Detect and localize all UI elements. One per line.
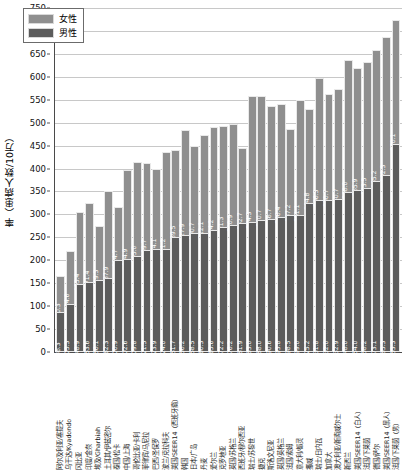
y-tick-mark	[47, 168, 50, 169]
x-axis-label-cell: 意大利/都灵	[296, 354, 305, 471]
bar-segment-male[interactable]: 283.0	[248, 222, 257, 352]
bar-segment-female[interactable]: 174.1	[152, 169, 161, 249]
bar-column[interactable]: 162.7281.9	[238, 8, 247, 352]
bar-segment-male[interactable]: 453.3	[392, 144, 401, 352]
bar-segment-male[interactable]: 299.0	[296, 215, 305, 352]
bar-segment-male[interactable]: 288.0	[257, 220, 266, 352]
bar-segment-female[interactable]: 220.9	[229, 124, 238, 225]
bar-segment-male[interactable]: 298.5	[286, 215, 295, 352]
bar-column[interactable]: 227.9256.2	[181, 8, 190, 352]
bar-segment-female[interactable]: 230.7	[325, 94, 334, 200]
bar-segment-male[interactable]: 331.8	[315, 200, 324, 352]
bar-segment-male[interactable]: 258.5	[190, 233, 199, 352]
bar-segment-female[interactable]: 266.3	[315, 78, 324, 200]
x-axis-label-cell: 法国/索姆	[286, 354, 295, 471]
bar-segment-male[interactable]: 223.9	[152, 249, 161, 352]
bar-column[interactable]: 220.9276.2	[229, 8, 238, 352]
bar-segment-female[interactable]: 227.9	[181, 130, 190, 235]
x-axis-label-cell: 泰国/松卡	[113, 354, 122, 471]
bar-segment-male[interactable]: 281.9	[238, 223, 247, 352]
bar-segment-male[interactable]: 256.2	[181, 235, 190, 353]
bar-segment-male[interactable]: 348.0	[344, 192, 353, 352]
bar-column[interactable]: 189.5251.7	[171, 8, 180, 352]
bar-segment-female[interactable]: 187.2	[286, 129, 295, 215]
bar-column[interactable]: 187.2298.5	[286, 8, 295, 352]
bar-column[interactable]: 190.7258.5	[190, 8, 199, 352]
bar-segment-female[interactable]: 246.4	[277, 104, 286, 217]
bar-column[interactable]: 189.7221.5	[143, 8, 152, 352]
bar-segment-female[interactable]: 288.0	[344, 60, 353, 192]
bar-segment-male[interactable]: 276.2	[229, 225, 238, 352]
bar-column[interactable]: 211.2224.0	[162, 8, 171, 352]
bar-column[interactable]: 224.2265.6	[210, 8, 219, 352]
bar-segment-male[interactable]: 200.9	[114, 260, 123, 352]
x-axis-label-cell: 新西兰	[344, 354, 353, 471]
bar-segment-male[interactable]: 293.8	[277, 217, 286, 352]
bar-segment-female[interactable]: 273.5	[363, 62, 372, 187]
bar-segment-female[interactable]: 190.7	[190, 146, 199, 233]
bar-segment-female[interactable]: 302.3	[382, 37, 391, 176]
bar-column[interactable]: 240.7332.9	[334, 8, 343, 352]
bar-segment-female[interactable]: 270.1	[392, 20, 401, 144]
x-axis-label-cell: 中国/上海	[123, 354, 132, 471]
bar-segment-female[interactable]: 246.7	[267, 106, 276, 219]
bar-column[interactable]: 251.1299.0	[296, 8, 305, 352]
bar-column[interactable]: 266.3331.8	[315, 8, 324, 352]
x-axis-label-cell: 美国/SEER14（西班牙裔）	[171, 354, 180, 471]
bar-segment-female[interactable]: 189.7	[143, 163, 152, 250]
bar-column[interactable]: 270.7288.0	[257, 8, 266, 352]
legend-label-male: 男性	[59, 26, 77, 39]
bar-column[interactable]: 246.4293.8	[277, 8, 286, 352]
bar-column[interactable]: 212.1260.3	[200, 8, 209, 352]
x-axis-label-cell: 冈比亚	[75, 354, 84, 471]
bar-segment-male[interactable]: 202.6	[123, 259, 132, 352]
x-axis-label-cell: 阿尔及利亚/塞提夫	[55, 354, 64, 471]
bar-segment-male[interactable]: 272.2	[219, 227, 228, 352]
bar-column[interactable]: 187.9162.3	[104, 8, 113, 352]
bar-column[interactable]: 274.3283.0	[248, 8, 257, 352]
bar-column[interactable]: 230.7332.0	[325, 8, 334, 352]
bar-segment-female[interactable]: 265.9	[353, 68, 362, 190]
bar-column[interactable]: 174.1223.9	[152, 8, 161, 352]
y-tick-mark	[47, 329, 50, 330]
bar-segment-male[interactable]: 265.6	[210, 230, 219, 352]
bar-segment-male[interactable]: 354.0	[353, 190, 362, 352]
y-tick-label: 150	[30, 278, 46, 288]
legend-swatch-female-icon	[28, 14, 54, 24]
bar-segment-male[interactable]: 373.1	[372, 181, 381, 352]
x-axis-label-text: 法国/下莱茵（男）	[393, 420, 399, 470]
bar-column[interactable]: 119.3156.1	[95, 8, 104, 352]
bar-segment-female[interactable]: 270.7	[257, 96, 266, 220]
bar-segment-male[interactable]: 325.2	[305, 203, 314, 352]
x-axis-label-cell: 印度/金奈	[84, 354, 93, 471]
bar-column[interactable]: 205.0209.8	[133, 8, 142, 352]
bar-segment-male[interactable]: 332.9	[334, 199, 343, 352]
bar-column[interactable]: 270.1453.3	[392, 8, 401, 352]
x-axis-label-text: 西班牙/穆尔西亚	[239, 426, 245, 470]
bar-column[interactable]: 114.7200.9	[114, 8, 123, 352]
bar-segment-male[interactable]: 358.2	[363, 188, 372, 352]
y-tick-label: 50	[35, 324, 46, 334]
legend-item-male: 男性	[28, 26, 77, 39]
bar-column[interactable]: 194.9202.6	[123, 8, 132, 352]
bar-segment-male[interactable]: 385.3	[382, 175, 391, 352]
bar-segment-male[interactable]: 224.0	[162, 249, 171, 352]
bar-column[interactable]: 302.3385.3	[382, 8, 391, 352]
bar-column[interactable]: 171.4153.6	[85, 8, 94, 352]
bar-column[interactable]: 204.8325.2	[305, 8, 314, 352]
bar-segment-male[interactable]: 290.6	[267, 219, 276, 352]
bar-segment-male[interactable]: 209.8	[133, 256, 142, 352]
bar-segment-female[interactable]: 224.2	[210, 127, 219, 230]
bar-segment-female[interactable]: 274.3	[248, 96, 257, 222]
bar-column[interactable]: 114.6105.3	[66, 8, 75, 352]
bar-column[interactable]: 221.3272.2	[219, 8, 228, 352]
bar-segment-male[interactable]: 260.3	[200, 233, 209, 352]
bar-segment-female[interactable]: 212.1	[200, 135, 209, 232]
bar-segment-male[interactable]: 221.5	[143, 250, 152, 352]
bar-segment-male[interactable]: 251.7	[171, 237, 180, 352]
bar-segment-male[interactable]: 332.0	[325, 200, 334, 352]
bar-column[interactable]: 155.4148.9	[76, 8, 85, 352]
bar-segment-female[interactable]: 221.3	[219, 126, 228, 228]
bar-segment-female[interactable]: 285.2	[372, 50, 381, 181]
bar-column[interactable]: 246.7290.6	[267, 8, 276, 352]
